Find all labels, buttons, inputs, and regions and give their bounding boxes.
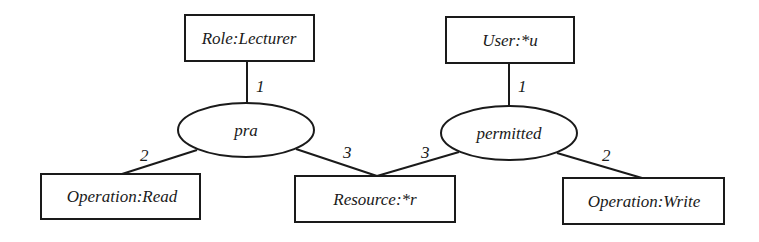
- edge-permitted-resource: 3: [377, 143, 459, 176]
- edge-permitted-user: 1: [509, 63, 527, 106]
- concept-user: User:*u: [446, 17, 574, 63]
- concept-operation-read: Operation:Read: [41, 174, 200, 219]
- concept-role-lecturer: Role:Lecturer: [185, 15, 314, 61]
- conceptual-graph-diagram: 1 2 3 1 2 3 Role:Lecturer User:*u Operat…: [0, 0, 759, 242]
- concept-label-role: Role:Lecturer: [201, 29, 297, 48]
- edge-label-pra-op-read: 2: [140, 146, 149, 165]
- edge-label-permitted-op-write: 2: [602, 146, 611, 165]
- edge-pra-resource: 3: [296, 143, 377, 176]
- concept-operation-write: Operation:Write: [563, 178, 724, 224]
- relation-permitted: permitted: [441, 106, 577, 160]
- edge-pra-op-read: 2: [122, 146, 197, 174]
- relation-label-pra: pra: [233, 121, 258, 140]
- relation-pra: pra: [178, 103, 314, 157]
- edge-label-permitted-resource: 3: [420, 143, 430, 162]
- edge-label-pra-role: 1: [256, 77, 265, 96]
- edge-label-pra-resource: 3: [342, 143, 352, 162]
- edge-permitted-op-write: 2: [557, 146, 642, 178]
- concept-label-op-read: Operation:Read: [67, 187, 178, 206]
- concept-resource: Resource:*r: [295, 176, 455, 222]
- concept-label-op-write: Operation:Write: [588, 192, 701, 211]
- concept-label-resource: Resource:*r: [332, 190, 417, 209]
- relation-label-permitted: permitted: [475, 124, 542, 143]
- edge-pra-role: 1: [247, 61, 265, 103]
- edge-label-permitted-user: 1: [518, 77, 527, 96]
- concept-label-user: User:*u: [482, 31, 538, 50]
